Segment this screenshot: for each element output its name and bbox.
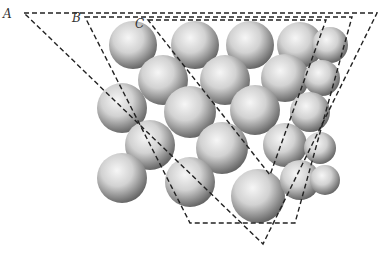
sphere	[310, 165, 340, 195]
diagram-canvas: A B C	[0, 0, 387, 257]
label-b: B	[72, 12, 81, 24]
sphere	[97, 153, 147, 203]
sphere-packing-diagram	[0, 0, 387, 257]
spheres-group	[97, 21, 348, 223]
sphere	[304, 132, 336, 164]
label-a: A	[3, 8, 12, 20]
sphere	[165, 157, 215, 207]
label-c: C	[135, 18, 144, 30]
